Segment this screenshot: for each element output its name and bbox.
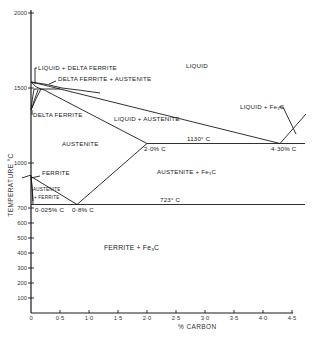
annotation-austenite-max: 2·0% C	[144, 145, 166, 152]
annotation-eutectoid-temp: 723° C	[160, 196, 181, 203]
x-tick-4.0: 4·0	[259, 315, 267, 321]
y-tick-700: 700	[17, 205, 27, 211]
x-tick-0: 0	[29, 315, 32, 321]
y-tick-200: 200	[17, 280, 27, 286]
x-axis-ticks: 0 0·5 1·0 1·5 2·0 2·5 3·0 3·5 4·0 4·5	[29, 310, 296, 321]
peritectic-upper	[31, 82, 100, 93]
y-tick-300: 300	[17, 265, 27, 271]
y-tick-2000: 2000	[14, 10, 27, 16]
x-axis-label: % CARBON	[178, 323, 217, 330]
phase-diagram: 2000 1500 1000 700 600 500 400 300 200 1…	[0, 0, 312, 340]
x-tick-2.0: 2·0	[143, 315, 151, 321]
x-tick-2.5: 2·5	[172, 315, 180, 321]
annotation-eutectic-temp: 1130° C	[187, 135, 211, 142]
label-liquid-delta-ferrite: LIQUID + DELTA FERRITE	[38, 64, 117, 71]
y-tick-1000: 1000	[14, 160, 27, 166]
x-tick-1.5: 1·5	[114, 315, 122, 321]
label-liquid: LIQUID	[186, 62, 208, 69]
label-liquid-austenite: LIQUID + AUSTENITE	[114, 115, 180, 122]
label-austenite-ferrite-2: + FERRITE	[34, 195, 59, 200]
acm-line	[77, 144, 147, 205]
label-delta-ferrite-austenite: DELTA FERRITE + AUSTENITE	[58, 75, 151, 82]
y-tick-400: 400	[17, 250, 27, 256]
y-axis-label: TEMPERATURE °C	[7, 153, 14, 216]
label-ferrite-fe3c: FERRITE + Fe₃C	[104, 244, 159, 251]
x-tick-4.5: 4·5	[288, 315, 296, 321]
annotation-eutectoid-comp: 0·8% C	[72, 206, 94, 213]
label-liquid-fe3c: LIQUID + Fe₃C	[240, 103, 285, 110]
x-tick-3.5: 3·5	[230, 315, 238, 321]
label-delta-ferrite: DELTA FERRITE	[33, 111, 82, 118]
y-tick-500: 500	[17, 235, 27, 241]
label-austenite-fe3c: AUSTENITE + Fe₃C	[157, 168, 217, 175]
label-ferrite: FERRITE	[42, 169, 70, 176]
y-tick-100: 100	[17, 295, 27, 301]
annotation-ferrite-max: 0·025% C	[35, 206, 64, 213]
label-austenite-ferrite-1: AUSTENITE	[33, 187, 61, 192]
y-tick-600: 600	[17, 220, 27, 226]
y-tick-1500: 1500	[14, 85, 27, 91]
x-tick-0.5: 0·5	[56, 315, 64, 321]
label-austenite: AUSTENITE	[62, 140, 99, 147]
x-tick-3.0: 3·0	[201, 315, 209, 321]
x-tick-1.0: 1·0	[85, 315, 93, 321]
annotation-eutectic-comp: 4·30% C	[271, 145, 297, 152]
